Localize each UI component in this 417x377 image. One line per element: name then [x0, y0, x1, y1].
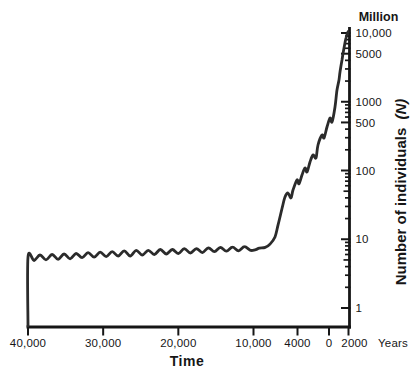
y-axis-title: Number of individuals (N) [392, 99, 409, 286]
curve-layer [28, 32, 348, 326]
x-axis-tick-label: 2000 [341, 337, 367, 349]
x-axis-tick-label: 10,000 [235, 337, 271, 349]
y-axis-tick-label: 10,000 [356, 27, 392, 39]
population-chart: 10,0005000100050010010140,00030,00020,00… [0, 0, 417, 377]
y-axis-tick-label: 5000 [356, 48, 382, 60]
y-axis-tick-label: 500 [356, 117, 376, 129]
population-curve [28, 32, 348, 326]
population-growth-figure: 10,0005000100050010010140,00030,00020,00… [0, 0, 417, 377]
x-axis-tick-label: 4000 [284, 337, 310, 349]
x-axis-unit-label: Years [378, 337, 408, 349]
x-axis-title: Time [170, 353, 204, 369]
x-axis-tick-label: 0 [326, 337, 333, 349]
y-axis-title-text: Number of individuals [392, 128, 409, 286]
y-axis-title-symbol: (N) [392, 99, 409, 120]
y-axis-tick-label: 100 [356, 165, 376, 177]
axis-ticks-layer: 10,0005000100050010010140,00030,00020,00… [10, 27, 392, 349]
y-axis-tick-label: 10 [356, 233, 369, 245]
x-axis-tick-label: 20,000 [160, 337, 196, 349]
y-axis-tick-label: 1 [356, 302, 363, 314]
x-axis-tick-label: 40,000 [10, 337, 46, 349]
x-axis-tick-label: 30,000 [85, 337, 121, 349]
y-axis-tick-label: 1000 [356, 96, 382, 108]
y-axis-unit-label: Million [359, 10, 399, 24]
